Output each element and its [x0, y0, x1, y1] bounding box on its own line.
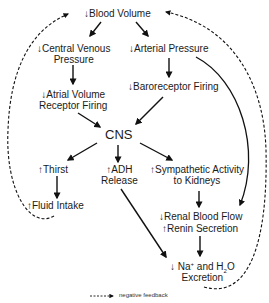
node-renal-blood-flow: ↓Renal Blood Flow — [159, 211, 242, 222]
node-arterial-pressure: ↓Arterial Pressure — [129, 43, 208, 54]
node-na-h2o-excretion: ↓ Na+ and H2O Excretion — [170, 261, 235, 283]
node-cns: CNS — [105, 128, 132, 142]
node-blood-volume: ↓Blood Volume — [84, 8, 151, 19]
arrow-adh-to-excretion — [121, 189, 166, 257]
node-baroreceptor-firing: ↓Baroreceptor Firing — [128, 81, 219, 92]
node-central-venous-pressure: ↓Central Venous Pressure — [37, 43, 110, 65]
arrow-bv-to-arterial — [136, 22, 148, 36]
arrow-cns-to-sympathetic — [140, 143, 172, 160]
node-fluid-intake: ↑Fluid Intake — [27, 200, 84, 211]
node-atrial-volume-receptor: ↓Atrial Volume Receptor Firing — [39, 89, 107, 111]
node-thirst: ↑Thirst — [38, 164, 68, 175]
arrow-baro-to-cns — [136, 97, 163, 124]
arrow-atrial-to-cns — [78, 113, 100, 127]
node-renin-secretion: ↑Renin Secretion — [162, 223, 238, 234]
node-adh-release: ↑ADH Release — [101, 164, 138, 186]
legend-label: negative feedback — [119, 292, 168, 299]
node-sympathetic-activity: ↑Sympathetic Activity to Kidneys — [150, 164, 244, 186]
down-arrow-icon: ↓ — [170, 261, 175, 272]
arrow-bv-to-cvp — [90, 22, 101, 36]
arrow-cns-to-thirst — [68, 143, 97, 160]
